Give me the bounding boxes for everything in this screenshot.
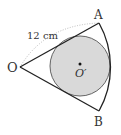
label-A: A — [93, 8, 103, 22]
radius-length-label: 12 cm — [27, 30, 59, 41]
center-point-O-prime — [79, 63, 82, 66]
sector-diagram: O A B O′ 12 cm — [0, 0, 121, 135]
label-B: B — [94, 115, 103, 129]
label-O-prime: O′ — [75, 67, 87, 80]
label-O: O — [7, 60, 18, 75]
